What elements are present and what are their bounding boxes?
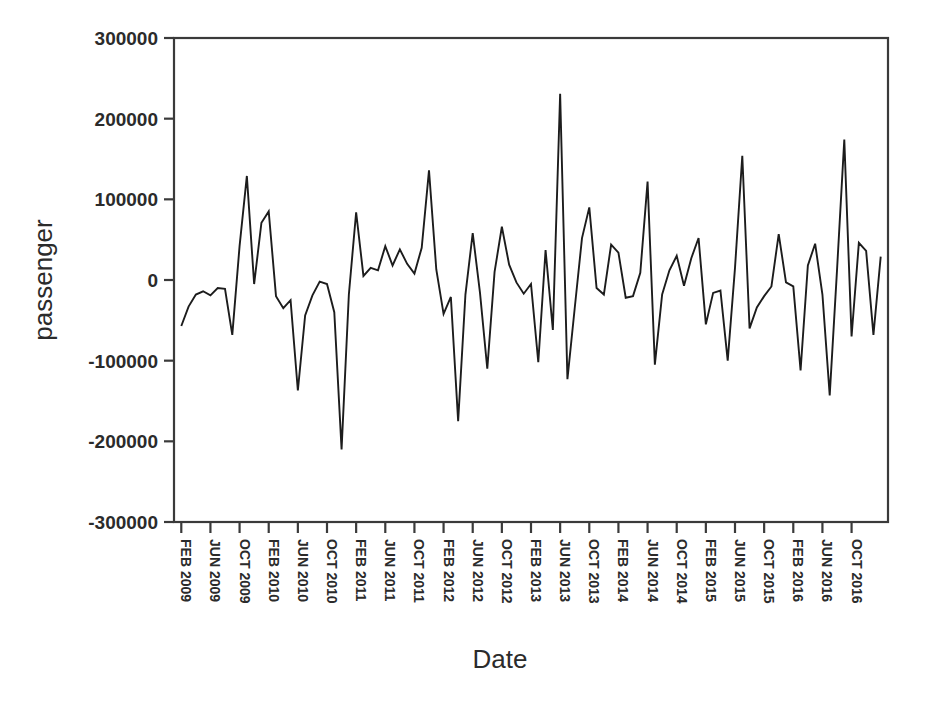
y-tick-label: 100000 bbox=[95, 189, 158, 210]
y-tick-label: 300000 bbox=[95, 28, 158, 49]
x-axis: FEB 2009JUN 2009OCT 2009FEB 2010JUN 2010… bbox=[178, 522, 864, 604]
x-tick-label: JUN 2014 bbox=[645, 539, 661, 602]
x-tick-label: FEB 2012 bbox=[441, 539, 457, 602]
x-tick-label: OCT 2016 bbox=[849, 539, 865, 604]
x-tick-label: OCT 2013 bbox=[586, 539, 602, 604]
x-tick-label: JUN 2016 bbox=[819, 539, 835, 602]
y-tick-label: 200000 bbox=[95, 109, 158, 130]
chart-figure: 3000002000001000000-100000-200000-300000… bbox=[0, 0, 928, 710]
x-tick-label: OCT 2011 bbox=[411, 539, 427, 603]
x-tick-label: FEB 2009 bbox=[178, 539, 194, 602]
x-tick-label: OCT 2014 bbox=[674, 539, 690, 604]
x-tick-label: FEB 2014 bbox=[615, 539, 631, 602]
x-tick-label: OCT 2012 bbox=[499, 539, 515, 604]
x-tick-label: JUN 2011 bbox=[382, 539, 398, 601]
chart-svg: 3000002000001000000-100000-200000-300000… bbox=[0, 0, 928, 710]
y-tick-label: -100000 bbox=[88, 351, 158, 372]
x-tick-label: FEB 2015 bbox=[703, 539, 719, 602]
y-axis-title: passenger bbox=[28, 219, 58, 341]
y-axis: 3000002000001000000-100000-200000-300000 bbox=[88, 28, 174, 533]
x-tick-label: JUN 2010 bbox=[295, 539, 311, 602]
x-tick-label: JUN 2013 bbox=[557, 539, 573, 602]
x-tick-label: OCT 2015 bbox=[761, 539, 777, 604]
x-tick-label: FEB 2013 bbox=[528, 539, 544, 602]
y-tick-label: -200000 bbox=[88, 431, 158, 452]
x-tick-label: JUN 2012 bbox=[470, 539, 486, 602]
y-tick-label: 0 bbox=[147, 270, 158, 291]
x-axis-title: Date bbox=[473, 644, 528, 674]
x-tick-label: FEB 2011 bbox=[353, 539, 369, 601]
y-tick-label: -300000 bbox=[88, 512, 158, 533]
x-tick-label: JUN 2015 bbox=[732, 539, 748, 602]
x-tick-label: OCT 2009 bbox=[237, 539, 253, 604]
data-line-passenger bbox=[181, 94, 880, 450]
x-tick-label: JUN 2009 bbox=[207, 539, 223, 602]
plot-frame bbox=[174, 38, 888, 522]
x-tick-label: FEB 2016 bbox=[790, 539, 806, 602]
x-tick-label: OCT 2010 bbox=[324, 539, 340, 604]
x-tick-label: FEB 2010 bbox=[266, 539, 282, 602]
